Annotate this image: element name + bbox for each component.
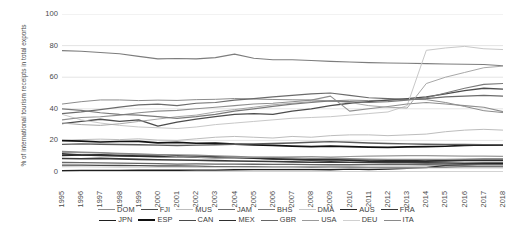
legend-item-dma[interactable]: DMA xyxy=(296,206,338,213)
x-tick-label: 2012 xyxy=(384,191,391,207)
y-tick-label: 80 xyxy=(32,42,58,50)
legend-label: BHS xyxy=(277,206,293,213)
x-tick-label: 2006 xyxy=(269,191,276,207)
x-tick-label: 1996 xyxy=(77,191,84,207)
series-line-dma xyxy=(62,46,503,128)
legend-item-mus[interactable]: MUS xyxy=(173,206,215,213)
x-tick-label: 2017 xyxy=(480,191,487,207)
y-tick-label: 0 xyxy=(32,168,58,176)
x-tick-label: 2001 xyxy=(173,191,180,207)
series-line-bhs xyxy=(62,51,503,66)
legend-swatch-fra-icon xyxy=(381,209,398,210)
legend-row-1: DOMFJIMUSJAMBHSDMAAUSFRA xyxy=(95,206,418,213)
legend-label: ESP xyxy=(157,216,172,223)
legend-item-dom[interactable]: DOM xyxy=(95,206,138,213)
legend-row-2: JPNESPCANMEXGBRUSADEUITA xyxy=(96,216,417,223)
legend-swatch-gbr-icon xyxy=(261,220,278,221)
legend-label: GBR xyxy=(280,216,296,223)
x-tick-label: 2003 xyxy=(211,191,218,207)
legend-swatch-mex-icon xyxy=(219,220,236,221)
y-tick-label: 20 xyxy=(32,136,58,144)
legend-item-aus[interactable]: AUS xyxy=(337,206,378,213)
plot-svg xyxy=(62,14,503,172)
x-tick-label: 2016 xyxy=(461,191,468,207)
legend-swatch-usa-icon xyxy=(302,220,319,221)
x-tick-label: 2008 xyxy=(307,191,314,207)
y-axis-tick-labels: 020406080100 xyxy=(30,0,58,180)
y-tick-label: 100 xyxy=(32,10,58,18)
x-tick-label: 1997 xyxy=(96,191,103,207)
legend-label: FJI xyxy=(160,206,171,213)
x-tick-label: 1999 xyxy=(135,191,142,207)
legend-swatch-esp-icon xyxy=(138,219,155,221)
plot-area xyxy=(62,14,503,172)
legend-swatch-fji-icon xyxy=(141,209,158,210)
legend-item-jam[interactable]: JAM xyxy=(215,206,255,213)
legend-item-fra[interactable]: FRA xyxy=(378,206,418,213)
legend-swatch-bhs-icon xyxy=(258,209,275,210)
legend-label: DMA xyxy=(318,206,335,213)
legend-item-usa[interactable]: USA xyxy=(299,216,340,223)
legend-swatch-jam-icon xyxy=(218,209,235,210)
y-tick-label: 60 xyxy=(32,73,58,81)
legend-label: ITA xyxy=(403,216,414,223)
legend-swatch-can-icon xyxy=(179,220,196,221)
legend-swatch-mus-icon xyxy=(176,209,193,210)
legend-item-fji[interactable]: FJI xyxy=(138,206,174,213)
legend-item-gbr[interactable]: GBR xyxy=(258,216,299,223)
legend-label: AUS xyxy=(359,206,375,213)
x-tick-label: 2015 xyxy=(441,191,448,207)
legend-label: JAM xyxy=(237,206,252,213)
legend-item-mex[interactable]: MEX xyxy=(216,216,257,223)
legend-label: MUS xyxy=(195,206,212,213)
legend-item-can[interactable]: CAN xyxy=(176,216,217,223)
legend-swatch-dom-icon xyxy=(98,209,115,210)
legend-swatch-deu-icon xyxy=(343,220,360,221)
x-tick-label: 2014 xyxy=(422,191,429,207)
legend-label: DOM xyxy=(117,206,135,213)
legend-item-jpn[interactable]: JPN xyxy=(96,216,135,223)
x-axis-tick-labels: 1995199619971998199920002001200220032004… xyxy=(62,175,503,207)
tourism-receipts-line-chart: % of international tourism receipts in t… xyxy=(0,0,513,250)
legend-swatch-dma-icon xyxy=(299,209,316,210)
legend-item-ita[interactable]: ITA xyxy=(381,216,417,223)
y-axis-title: % of international tourism receipts in t… xyxy=(20,11,27,181)
legend-item-esp[interactable]: ESP xyxy=(135,216,175,223)
legend-label: FRA xyxy=(400,206,415,213)
legend-swatch-ita-icon xyxy=(384,220,401,221)
legend-swatch-aus-icon xyxy=(340,209,357,210)
x-tick-label: 1995 xyxy=(58,191,65,207)
legend-swatch-jpn-icon xyxy=(99,220,116,221)
legend-label: JPN xyxy=(118,216,132,223)
series-line-fji xyxy=(62,88,503,126)
legend-label: USA xyxy=(321,216,337,223)
legend-label: CAN xyxy=(198,216,214,223)
legend-item-bhs[interactable]: BHS xyxy=(255,206,296,213)
y-tick-label: 40 xyxy=(32,105,58,113)
x-tick-label: 2010 xyxy=(346,191,353,207)
legend-label: DEU xyxy=(362,216,378,223)
series-line-mus xyxy=(62,129,503,140)
chart-legend: DOMFJIMUSJAMBHSDMAAUSFRAJPNESPCANMEXGBRU… xyxy=(0,206,513,224)
legend-item-deu[interactable]: DEU xyxy=(340,216,381,223)
legend-label: MEX xyxy=(238,216,254,223)
x-tick-label: 2018 xyxy=(499,191,506,207)
